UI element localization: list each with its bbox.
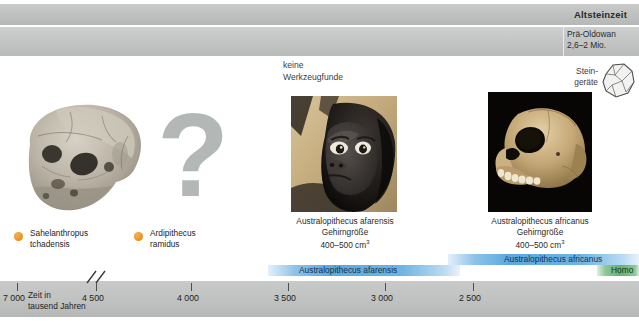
hominid-timeline-figure: Altsteinzeit Prä-Oldowan 2,6–2 Mio. Stei… xyxy=(0,0,639,327)
stone-tools-label: Stein- geräte xyxy=(560,66,598,88)
marker-dot-sahelanthropus xyxy=(14,232,23,241)
range-bar-africanus: Australopithecus africanus xyxy=(448,254,639,265)
caption-afarensis-name: Australopithecus afarensis xyxy=(276,216,414,227)
figure-bottom-margin xyxy=(0,317,639,327)
caption-africanus-name: Australopithecus africanus xyxy=(470,216,610,227)
axis-tick-label-3000: 3 000 xyxy=(371,293,393,303)
stone-tools-label-line2: geräte xyxy=(560,77,598,88)
stone-tool-icon xyxy=(600,62,636,104)
no-tools-line1: keine xyxy=(283,60,343,72)
axis-tick-label-4000: 4 000 xyxy=(177,293,199,303)
caption-afarensis-brain-number: 400–500 cm xyxy=(320,240,366,250)
era-label: Altsteinzeit xyxy=(574,9,627,20)
axis-title: Zeit in tausend Jahren xyxy=(28,290,86,311)
caption-africanus-brain-label: Gehirngröße xyxy=(470,227,610,238)
period-divider xyxy=(563,27,564,56)
range-bar-africanus-label: Australopithecus africanus xyxy=(504,254,602,265)
axis-tick-label-3500: 3 500 xyxy=(274,293,296,303)
legend-sahelanthropus: Sahelanthropus tchadensis xyxy=(30,228,88,249)
legend-ardipithecus-line2: ramidus xyxy=(150,239,196,250)
skull-photo-africanus xyxy=(488,92,592,212)
range-bar-afarensis: Australopithecus afarensis xyxy=(268,265,460,276)
period-name: Prä-Oldowan xyxy=(567,29,616,40)
caption-afarensis-brain-label: Gehirngröße xyxy=(276,227,414,238)
axis-tick-4000 xyxy=(191,283,192,291)
range-bar-homo: Homo xyxy=(597,265,639,276)
period-band xyxy=(0,27,639,56)
legend-sahelanthropus-line2: tchadensis xyxy=(30,239,88,250)
caption-afarensis-brain-exponent: 3 xyxy=(366,239,369,245)
legend-ardipithecus: Ardipithecus ramidus xyxy=(150,228,196,249)
axis-tick-7000 xyxy=(17,283,18,291)
caption-africanus-brain-number: 400–500 cm xyxy=(515,240,561,250)
axis-tick-3000 xyxy=(385,283,386,291)
axis-tick-label-7000: 7 000 xyxy=(3,293,25,303)
stone-tools-label-line1: Stein- xyxy=(560,66,598,77)
axis-break-icon xyxy=(84,269,110,289)
axis-title-line1: Zeit in xyxy=(28,290,86,301)
range-bar-homo-label: Homo xyxy=(611,265,633,276)
axis-tick-4500 xyxy=(96,283,97,291)
legend-ardipithecus-line1: Ardipithecus xyxy=(150,228,196,239)
caption-africanus-brain-exponent: 3 xyxy=(561,239,564,245)
legend-sahelanthropus-line1: Sahelanthropus xyxy=(30,228,88,239)
axis-tick-2500 xyxy=(473,283,474,291)
question-mark-placeholder: ? xyxy=(157,96,229,214)
ape-face-photo-afarensis xyxy=(291,96,397,212)
caption-afarensis: Australopithecus afarensis Gehirngröße 4… xyxy=(276,216,414,251)
range-bar-afarensis-label: Australopithecus afarensis xyxy=(299,265,397,276)
period-range: 2,6–2 Mio. xyxy=(567,40,616,51)
axis-tick-label-2500: 2 500 xyxy=(459,293,481,303)
no-tools-note: keine Werkzeugfunde xyxy=(283,60,343,83)
no-tools-line2: Werkzeugfunde xyxy=(283,72,343,84)
marker-dot-ardipithecus xyxy=(134,232,143,241)
skull-photo-sahelanthropus xyxy=(12,92,150,218)
caption-africanus: Australopithecus africanus Gehirngröße 4… xyxy=(470,216,610,251)
axis-title-line2: tausend Jahren xyxy=(28,301,86,312)
caption-africanus-brain-value: 400–500 cm3 xyxy=(470,237,610,250)
era-band xyxy=(0,4,639,25)
axis-tick-3500 xyxy=(288,283,289,291)
period-block: Prä-Oldowan 2,6–2 Mio. xyxy=(567,29,616,52)
caption-afarensis-brain-value: 400–500 cm3 xyxy=(276,237,414,250)
